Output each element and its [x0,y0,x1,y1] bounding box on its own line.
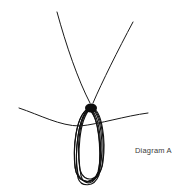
knot [85,104,97,113]
wrapped-loops [74,108,104,185]
diagram-canvas [0,0,177,191]
left-strand [57,12,90,103]
right-strand [93,22,133,103]
diagram-caption: Diagram A [135,146,172,155]
